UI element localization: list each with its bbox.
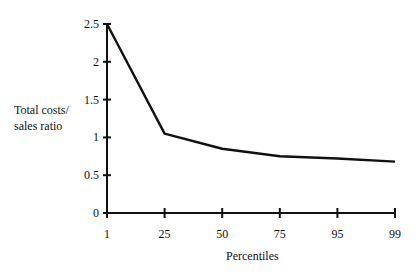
x-tick-label: 99 xyxy=(389,227,401,241)
x-tick-label: 95 xyxy=(331,227,343,241)
x-tick-label: 50 xyxy=(216,227,228,241)
line-chart: 00.511.522.5 12550759599 xyxy=(0,0,420,279)
axes xyxy=(107,24,395,213)
y-tick-label: 0 xyxy=(93,206,99,220)
y-tick-label: 1 xyxy=(93,130,99,144)
data-line xyxy=(107,24,395,162)
x-tick-label: 75 xyxy=(274,227,286,241)
y-tick-label: 0.5 xyxy=(84,168,99,182)
y-tick-label: 2 xyxy=(93,55,99,69)
y-tick-label: 2.5 xyxy=(84,17,99,31)
y-axis-label: Total costs/ sales ratio xyxy=(14,102,69,134)
y-tick-label: 1.5 xyxy=(84,93,99,107)
x-tick-label: 1 xyxy=(104,227,110,241)
x-tick-label: 25 xyxy=(159,227,171,241)
x-axis-label: Percentiles xyxy=(226,249,279,264)
